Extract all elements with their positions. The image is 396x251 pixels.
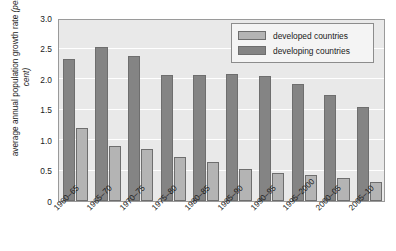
bar-group — [95, 20, 120, 201]
bar-developed-countries — [207, 162, 219, 201]
bar-developing-countries — [63, 59, 75, 201]
bar-developed-countries — [76, 128, 88, 201]
legend-entry: developed countries — [238, 29, 367, 42]
bar-developing-countries — [292, 84, 304, 201]
y-axis-tick-label: 0.5 — [12, 166, 52, 176]
y-axis-tick-label: 0 — [12, 197, 52, 207]
bar-group — [63, 20, 88, 201]
bar-group — [128, 20, 153, 201]
y-axis-title: average annual population growth rate (p… — [11, 0, 41, 157]
bar-developed-countries — [272, 173, 284, 201]
bar-developed-countries — [239, 169, 251, 201]
legend-swatch — [238, 31, 266, 40]
population-growth-bar-chart: average annual population growth rate (p… — [0, 0, 396, 251]
bar-developing-countries — [161, 75, 173, 201]
gridline — [59, 17, 384, 18]
bar-developed-countries — [370, 182, 382, 201]
bar-developed-countries — [141, 149, 153, 201]
chart-legend: developed countriesdeveloping countries — [231, 23, 374, 63]
bar-developed-countries — [174, 157, 186, 201]
legend-entry: developing countries — [238, 44, 367, 57]
legend-label: developed countries — [273, 31, 348, 41]
bar-developed-countries — [337, 178, 349, 201]
legend-swatch — [238, 46, 266, 55]
y-axis-title-main: average annual population growth rate — [11, 12, 20, 156]
bar-developing-countries — [226, 74, 238, 201]
bar-developing-countries — [259, 76, 271, 201]
bar-developing-countries — [193, 75, 205, 201]
legend-label: developing countries — [273, 46, 350, 56]
bar-developed-countries — [305, 175, 317, 201]
bar-group — [193, 20, 218, 201]
bar-developed-countries — [109, 146, 121, 201]
bar-developing-countries — [95, 47, 107, 201]
bar-group — [161, 20, 186, 201]
bar-developing-countries — [357, 107, 369, 201]
bar-developing-countries — [324, 95, 336, 201]
bar-developing-countries — [128, 56, 140, 201]
